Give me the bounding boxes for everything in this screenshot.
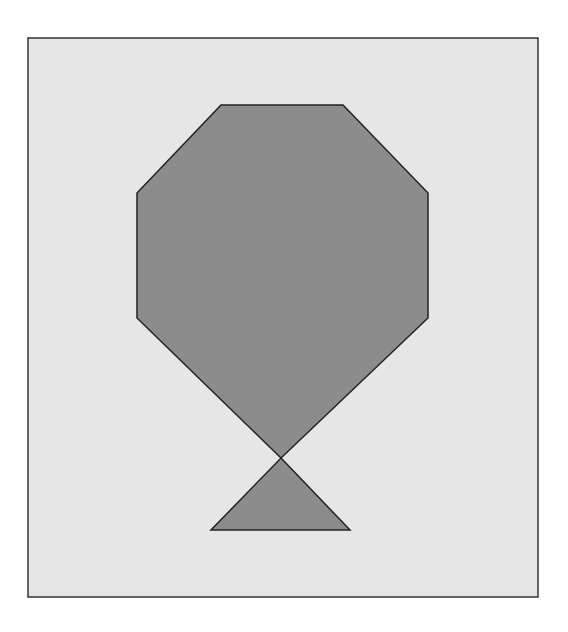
diagram-canvas <box>0 0 568 632</box>
